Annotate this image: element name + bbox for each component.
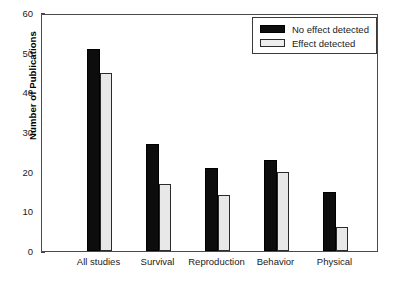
bar (100, 73, 113, 252)
y-tick-label: 60 (0, 7, 33, 20)
y-tick-label: 0 (0, 245, 33, 258)
y-tick-label: 10 (0, 205, 33, 218)
bar (205, 168, 218, 251)
bar (146, 144, 159, 251)
legend-item-effect-detected: Effect detected (260, 36, 376, 50)
bar-chart-figure: Number of Publications 0102030405060 All… (0, 0, 393, 284)
bar (336, 227, 349, 251)
chart-legend: No effect detected Effect detected (252, 17, 377, 54)
y-tick-label: 50 (0, 47, 33, 60)
bar (323, 192, 336, 252)
bar (264, 160, 277, 251)
bar (159, 184, 172, 251)
bar (218, 195, 231, 251)
y-tick-label: 30 (0, 126, 33, 139)
legend-swatch-icon-series-1 (260, 39, 285, 47)
y-tick-label: 40 (0, 86, 33, 99)
legend-item-no-effect-detected: No effect detected (260, 22, 376, 36)
y-tick-label: 20 (0, 166, 33, 179)
bar (87, 49, 100, 251)
legend-swatch-icon-series-0 (260, 25, 285, 33)
x-axis-label: Physical (290, 256, 380, 267)
legend-label-series-0: No effect detected (292, 24, 369, 35)
bar (277, 172, 290, 251)
legend-label-series-1: Effect detected (292, 38, 355, 49)
